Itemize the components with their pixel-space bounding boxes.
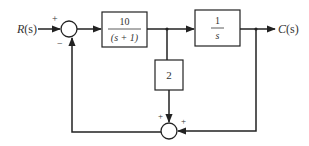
block2-numerator: 1	[215, 15, 220, 26]
summer1-plus-sign: +	[52, 13, 58, 24]
summing-junction-2	[161, 123, 177, 139]
summing-junction-1	[61, 21, 77, 37]
main-feedback-line	[72, 38, 161, 132]
input-label: R(s)	[16, 22, 37, 36]
summer2-right-plus-sign: +	[181, 116, 186, 126]
summer2-left-plus-sign: +	[158, 111, 163, 121]
output-label: C(s)	[278, 22, 299, 36]
summer1-minus-sign: −	[57, 38, 63, 49]
block2-denominator: s	[216, 30, 220, 41]
block-diagram: R(s) + − 10 (s + 1) 1 s C(s) 2 + +	[0, 0, 309, 146]
block1-denominator: (s + 1)	[111, 32, 139, 44]
gain-value: 2	[166, 69, 172, 81]
block1-numerator: 10	[120, 16, 130, 27]
